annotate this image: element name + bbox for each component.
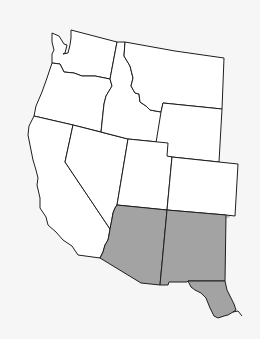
state-new-mexico xyxy=(160,210,226,285)
state-colorado xyxy=(167,157,238,216)
western-us-map xyxy=(0,0,260,339)
